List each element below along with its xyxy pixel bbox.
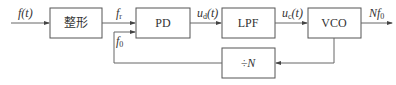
lpf-label: LPF xyxy=(238,16,259,30)
ud-label: ud(t) xyxy=(197,6,218,21)
input-signal-label: f(t) xyxy=(18,6,33,20)
vco-feedback-arrow xyxy=(276,38,334,63)
uc-label: uc(t) xyxy=(282,6,303,21)
vco-label: VCO xyxy=(321,16,347,30)
pd-label: PD xyxy=(155,16,171,30)
output-label: Nf0 xyxy=(368,6,384,21)
shaper-label: 整形 xyxy=(64,15,88,30)
f0-label: f0 xyxy=(116,34,123,49)
fr-label: fr xyxy=(116,6,122,21)
divider-label: ÷N xyxy=(241,56,257,70)
pll-block-diagram: f(t) 整形 fr PD ud(t) LPF uc(t) VCO Nf0 ÷N… xyxy=(0,0,396,85)
